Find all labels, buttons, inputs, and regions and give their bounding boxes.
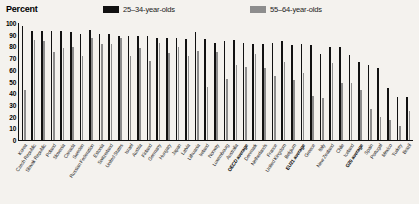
bar bbox=[322, 98, 324, 140]
bar-group bbox=[173, 23, 183, 140]
x-axis-label: Greece bbox=[307, 142, 317, 204]
y-tick-20: 20 bbox=[9, 114, 16, 121]
bar-series-group bbox=[19, 23, 413, 140]
bar-group bbox=[154, 23, 164, 140]
bar bbox=[332, 63, 334, 140]
bar-group bbox=[240, 23, 250, 140]
x-axis-label-text: Brazil bbox=[402, 143, 412, 155]
bar bbox=[226, 79, 228, 140]
bar bbox=[43, 41, 45, 140]
bar bbox=[389, 120, 391, 140]
legend-swatch-55-64 bbox=[250, 6, 266, 13]
bar bbox=[82, 56, 84, 140]
bar-group bbox=[384, 23, 394, 140]
bar bbox=[139, 48, 141, 140]
bar-group bbox=[250, 23, 260, 140]
bar-group bbox=[355, 23, 365, 140]
bar bbox=[207, 87, 209, 140]
y-tick-0: 0 bbox=[13, 138, 16, 145]
bar-group bbox=[327, 23, 337, 140]
bar bbox=[149, 61, 151, 140]
bar-group bbox=[67, 23, 77, 140]
bar bbox=[264, 68, 266, 140]
bar-group bbox=[259, 23, 269, 140]
legend-label-25-34: 25–34-year-olds bbox=[123, 5, 175, 14]
bar bbox=[245, 67, 247, 140]
y-tick-30: 30 bbox=[9, 103, 16, 110]
bar bbox=[360, 90, 362, 140]
bar-group bbox=[278, 23, 288, 140]
chart-header: Percent 25–34-year-olds 55–64-year-olds bbox=[0, 0, 419, 22]
y-tick-100: 100 bbox=[6, 21, 16, 28]
bar-group bbox=[288, 23, 298, 140]
bar-group bbox=[298, 23, 308, 140]
bar-group bbox=[307, 23, 317, 140]
y-tick-90: 90 bbox=[9, 32, 16, 39]
bar-group bbox=[38, 23, 48, 140]
y-tick-40: 40 bbox=[9, 91, 16, 98]
x-axis-line bbox=[18, 140, 413, 141]
bar bbox=[53, 52, 55, 140]
bar bbox=[197, 51, 199, 140]
bar-group bbox=[375, 23, 385, 140]
bar bbox=[351, 83, 353, 140]
bar bbox=[111, 44, 113, 140]
bar bbox=[178, 47, 180, 140]
bar bbox=[380, 117, 382, 140]
bar-group bbox=[163, 23, 173, 140]
y-tick-50: 50 bbox=[9, 79, 16, 86]
bar bbox=[120, 38, 122, 140]
y-tick-60: 60 bbox=[9, 68, 16, 75]
bar bbox=[312, 96, 314, 140]
bar bbox=[341, 83, 343, 140]
bar-group bbox=[403, 23, 413, 140]
bar bbox=[188, 56, 190, 140]
chart-container: Percent 25–34-year-olds 55–64-year-olds … bbox=[0, 0, 419, 204]
bar bbox=[303, 73, 305, 140]
bar bbox=[255, 54, 257, 140]
legend-label-55-64: 55–64-year-olds bbox=[270, 5, 322, 14]
bar-group bbox=[105, 23, 115, 140]
bar bbox=[370, 109, 372, 140]
bar bbox=[34, 40, 36, 140]
bar bbox=[274, 76, 276, 140]
bar bbox=[284, 62, 286, 140]
bar-group bbox=[182, 23, 192, 140]
bar bbox=[293, 80, 295, 140]
bar bbox=[101, 44, 103, 140]
bar-group bbox=[202, 23, 212, 140]
legend-swatch-25-34 bbox=[103, 6, 119, 13]
bar-group bbox=[346, 23, 356, 140]
bar-group bbox=[125, 23, 135, 140]
bar bbox=[130, 56, 132, 140]
x-axis-labels: KoreaCzech RepublicSlovak RepublicPoland… bbox=[19, 142, 413, 204]
y-tick-70: 70 bbox=[9, 56, 16, 63]
bar-group bbox=[394, 23, 404, 140]
bar-group bbox=[115, 23, 125, 140]
bar-group bbox=[230, 23, 240, 140]
bar bbox=[63, 48, 65, 140]
bar bbox=[91, 38, 93, 140]
x-axis-label: Brazil bbox=[403, 142, 413, 204]
bar-group bbox=[86, 23, 96, 140]
bar bbox=[409, 111, 411, 140]
y-tick-10: 10 bbox=[9, 126, 16, 133]
legend-item-55-64: 55–64-year-olds bbox=[250, 5, 322, 14]
bar-group bbox=[317, 23, 327, 140]
bar bbox=[236, 65, 238, 140]
bar-group bbox=[192, 23, 202, 140]
bar-group bbox=[221, 23, 231, 140]
bar-group bbox=[19, 23, 29, 140]
bar-group bbox=[57, 23, 67, 140]
bar bbox=[216, 52, 218, 140]
bar bbox=[24, 90, 26, 140]
y-axis-ticks: 0102030405060708090100 bbox=[0, 23, 18, 141]
bar-group bbox=[336, 23, 346, 140]
bar-group bbox=[29, 23, 39, 140]
bar bbox=[399, 126, 401, 140]
bar-group bbox=[365, 23, 375, 140]
bar-group bbox=[269, 23, 279, 140]
bar bbox=[168, 53, 170, 140]
bar-group bbox=[48, 23, 58, 140]
bar-group bbox=[211, 23, 221, 140]
